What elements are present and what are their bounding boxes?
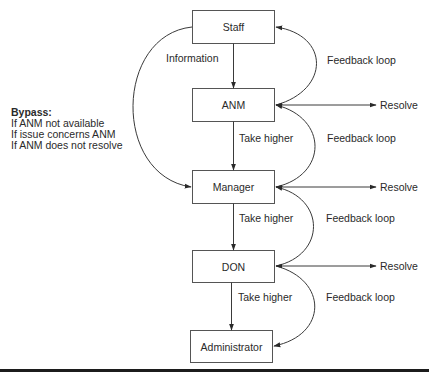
label-feedback-loop-3: Feedback loop [326,212,395,224]
feedback-arc-don-to-administrator [274,266,315,346]
label-resolve-3: Resolve [380,260,418,272]
label-feedback-loop-1: Feedback loop [327,54,396,66]
node-anm-label: ANM [222,99,245,111]
bypass-arc-staff-to-manager [133,27,192,187]
feedback-arc-anm-to-staff [276,27,317,105]
node-administrator: Administrator [191,331,273,363]
node-manager: Manager [193,171,275,204]
label-information: Information [166,52,219,64]
label-feedback-loop-2: Feedback loop [327,132,396,144]
feedback-arc-manager-to-anm [276,105,315,187]
bypass-condition-3: If ANM does not resolve [11,139,123,151]
label-resolve-1: Resolve [380,99,418,111]
label-take-higher-3: Take higher [238,291,293,303]
escalation-flowchart: Staff ANM Manager DON Administrator Info… [0,0,429,378]
feedback-arc-don-to-manager [276,187,314,266]
node-manager-label: Manager [213,181,255,193]
node-staff-label: Staff [223,21,244,33]
bottom-rule [0,369,429,372]
node-anm: ANM [193,89,275,122]
label-take-higher-2: Take higher [239,212,294,224]
node-staff: Staff [193,11,275,44]
node-don: DON [193,251,275,283]
node-administrator-label: Administrator [201,341,263,353]
label-resolve-2: Resolve [380,181,418,193]
node-don-label: DON [222,261,245,273]
label-take-higher-1: Take higher [239,132,294,144]
label-feedback-loop-4: Feedback loop [326,291,395,303]
